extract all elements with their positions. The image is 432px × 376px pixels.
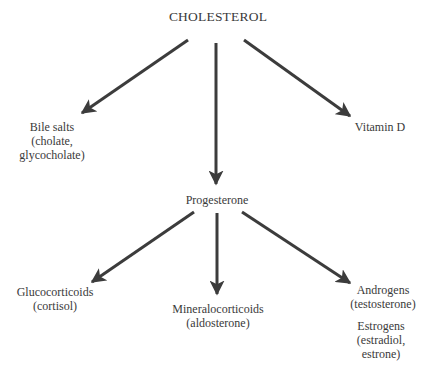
- node-estrogens: Estrogens (estradiol, estrone): [357, 319, 405, 361]
- arrow-progesterone-to-androgens: [242, 212, 350, 283]
- glucocorticoids-line-1: Glucocorticoids: [17, 285, 94, 299]
- estrogens-line-1: Estrogens: [357, 319, 405, 333]
- bile-salts-line-1: Bile salts: [19, 120, 84, 134]
- glucocorticoids-line-2: (cortisol): [17, 299, 94, 313]
- node-androgens: Androgens (testosterone): [350, 283, 415, 311]
- progesterone-line-1: Progesterone: [186, 193, 249, 207]
- node-glucocorticoids: Glucocorticoids (cortisol): [17, 285, 94, 313]
- estrogens-line-3: estrone): [357, 347, 405, 361]
- node-cholesterol: CHOLESTEROL: [169, 10, 267, 24]
- arrow-progesterone-to-glucocorticoids: [92, 212, 194, 282]
- androgens-line-2: (testosterone): [350, 297, 415, 311]
- arrow-cholesterol-to-bile-salts: [82, 40, 188, 113]
- node-mineralocorticoids: Mineralocorticoids (aldosterone): [172, 302, 263, 330]
- node-vitamin-d: Vitamin D: [355, 120, 405, 134]
- arrow-cholesterol-to-vitamin-d: [244, 40, 350, 116]
- vitamin-d-line-1: Vitamin D: [355, 120, 405, 134]
- bile-salts-line-3: glycocholate): [19, 148, 84, 162]
- mineralocorticoids-line-2: (aldosterone): [172, 316, 263, 330]
- bile-salts-line-2: (cholate,: [19, 134, 84, 148]
- node-bile-salts: Bile salts (cholate, glycocholate): [19, 120, 84, 162]
- estrogens-line-2: (estradiol,: [357, 333, 405, 347]
- mineralocorticoids-line-1: Mineralocorticoids: [172, 302, 263, 316]
- node-progesterone: Progesterone: [186, 193, 249, 207]
- androgens-line-1: Androgens: [350, 283, 415, 297]
